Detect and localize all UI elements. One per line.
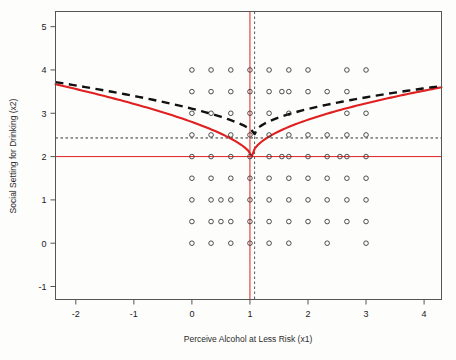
y-tick-label: 1 [41,195,46,205]
x-tick-label: 4 [422,309,427,319]
x-tick-label: -1 [130,309,138,319]
x-tick-label: -2 [72,309,80,319]
x-tick-label: 1 [247,309,252,319]
scatter-plot-figure: -2-101234 -1012345 Perceive Alcohol at L… [0,0,456,360]
y-tick-label: 0 [41,239,46,249]
x-tick-label: 0 [189,309,194,319]
y-tick-label: 5 [41,22,46,32]
y-tick-label: -1 [38,282,46,292]
y-tick-label: 4 [41,65,46,75]
y-tick-label: 3 [41,109,46,119]
y-tick-label: 2 [41,152,46,162]
x-tick-label: 3 [364,309,369,319]
figure-background [0,0,456,360]
x-tick-label: 2 [305,309,310,319]
chart-canvas: -2-101234 -1012345 Perceive Alcohol at L… [0,0,456,360]
y-axis-title: Social Setting for Drinking (x2) [8,98,18,213]
x-axis-title: Perceive Alcohol at Less Risk (x1) [184,334,313,344]
